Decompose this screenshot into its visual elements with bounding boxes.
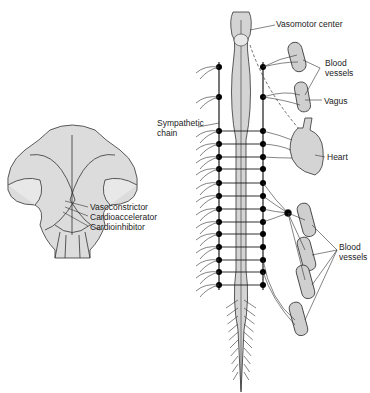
heart-illustration	[290, 118, 323, 175]
nervous-system-diagram	[0, 0, 370, 393]
label-sympathetic-chain-line2: chain	[157, 128, 204, 138]
label-sympathetic-chain: Sympathetic chain	[157, 118, 204, 138]
label-blood-vessels-bottom: Blood vessels	[339, 242, 367, 262]
brainstem-illustration	[8, 125, 138, 258]
label-vasomotor-center: Vasomotor center	[276, 19, 342, 29]
label-blood-vessels-top: Blood vessels	[325, 58, 353, 78]
label-blood-vessels-bottom-line1: Blood	[339, 242, 367, 252]
label-cardioaccelerator: Cardioaccelerator	[90, 212, 157, 222]
spinal-cord	[231, 12, 252, 392]
label-sympathetic-chain-line1: Sympathetic	[157, 118, 204, 128]
label-blood-vessels-top-line1: Blood	[325, 58, 353, 68]
label-heart: Heart	[327, 152, 348, 162]
label-cardioinhibitor: Cardioinhibitor	[90, 222, 145, 232]
label-blood-vessels-top-line2: vessels	[325, 68, 353, 78]
label-vagus: Vagus	[324, 96, 347, 106]
label-blood-vessels-bottom-line2: vessels	[339, 252, 367, 262]
label-vasoconstrictor: Vasoconstrictor	[90, 202, 148, 212]
blood-vessel-icons	[286, 41, 317, 337]
